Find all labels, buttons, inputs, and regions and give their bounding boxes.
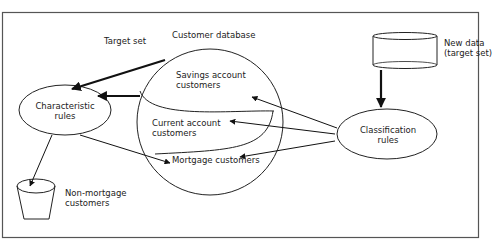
characteristic-rules-label: Characteristic rules [22, 101, 108, 121]
mortgage-customers-label: Mortgage customers [172, 155, 260, 165]
current-account-label: Current account customers [152, 118, 221, 138]
non-mortgage-bucket [17, 179, 55, 219]
target-set-label: Target set [104, 36, 146, 46]
arrow-target-set [72, 60, 165, 89]
arrow-characteristic-to-nonmortgage [30, 135, 52, 186]
new-data-label: New data (target set) [444, 38, 492, 58]
arrow-classification-to-savings [252, 97, 337, 128]
arrow-characteristic-to-mortgage [80, 135, 170, 163]
new-data-cylinder [373, 33, 437, 69]
non-mortgage-label: Non-mortgage customers [65, 188, 127, 208]
customer-database-title: Customer database [172, 30, 255, 40]
classification-rules-label: Classification rules [342, 125, 434, 145]
savings-account-label: Savings account customers [176, 70, 246, 90]
